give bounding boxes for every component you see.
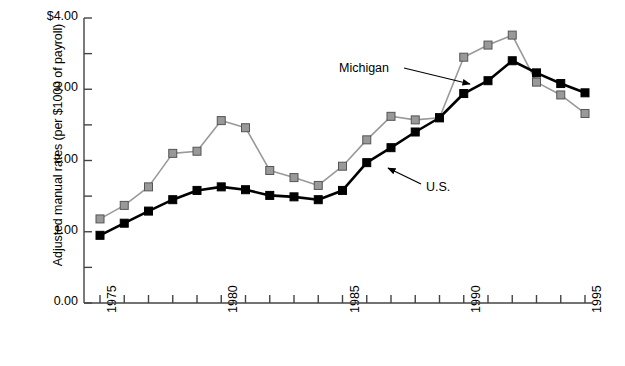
data-point-marker — [266, 166, 274, 174]
data-point-marker — [533, 78, 541, 86]
data-point-marker — [290, 193, 298, 201]
data-point-marker — [411, 128, 419, 136]
annotation-arrow-us — [388, 168, 421, 184]
data-point-marker — [363, 136, 371, 144]
data-point-marker — [508, 31, 516, 39]
data-point-marker — [460, 90, 468, 98]
data-point-marker — [460, 53, 468, 61]
data-point-marker — [266, 191, 274, 199]
data-point-marker — [339, 186, 347, 194]
data-point-marker — [484, 41, 492, 49]
data-point-marker — [581, 109, 589, 117]
data-point-marker — [169, 196, 177, 204]
data-point-marker — [484, 77, 492, 85]
annotation-arrows — [388, 68, 470, 184]
data-point-marker — [557, 80, 565, 88]
plot-area — [0, 0, 625, 366]
annotation-arrow-michigan — [404, 68, 470, 84]
data-point-marker — [387, 144, 395, 152]
data-point-marker — [193, 147, 201, 155]
data-point-marker — [314, 196, 322, 204]
data-point-marker — [290, 174, 298, 182]
data-point-marker — [339, 162, 347, 170]
data-point-marker — [387, 112, 395, 120]
data-point-marker — [145, 207, 153, 215]
data-point-marker — [120, 219, 128, 227]
series-line-us — [100, 61, 585, 236]
data-point-marker — [411, 116, 419, 124]
data-point-marker — [120, 201, 128, 209]
data-point-marker — [581, 89, 589, 97]
data-point-marker — [193, 186, 201, 194]
data-point-marker — [436, 114, 444, 122]
data-point-marker — [145, 183, 153, 191]
data-point-marker — [242, 186, 250, 194]
data-point-marker — [96, 215, 104, 223]
data-point-marker — [96, 231, 104, 239]
data-point-marker — [508, 57, 516, 65]
data-point-marker — [242, 124, 250, 132]
chart-figure: Adjusted manual rates (per $1000 of payr… — [0, 0, 625, 366]
data-point-marker — [557, 91, 565, 99]
data-point-marker — [217, 183, 225, 191]
data-series — [96, 31, 589, 239]
data-point-marker — [217, 117, 225, 125]
data-point-marker — [169, 149, 177, 157]
data-point-marker — [314, 181, 322, 189]
data-point-marker — [533, 69, 541, 77]
data-point-marker — [363, 159, 371, 167]
